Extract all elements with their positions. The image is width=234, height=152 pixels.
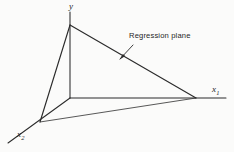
base-edge-x2-to-x1 <box>40 98 196 122</box>
regression-plane-figure: y x1 x2 Regression plane <box>0 0 234 152</box>
axis-label-x1: x1 <box>212 85 219 94</box>
axis-label-x2: x2 <box>17 130 24 139</box>
axis-label-y-text: y <box>69 1 73 11</box>
axis-label-x1-subscript: 1 <box>216 89 219 96</box>
axis-label-x2-subscript: 2 <box>21 134 24 141</box>
figure-canvas <box>0 0 234 152</box>
axis-label-y: y <box>69 2 73 11</box>
plane-edge-apex-to-x2 <box>40 25 70 122</box>
regression-plane-annotation-label: Regression plane <box>129 32 191 40</box>
